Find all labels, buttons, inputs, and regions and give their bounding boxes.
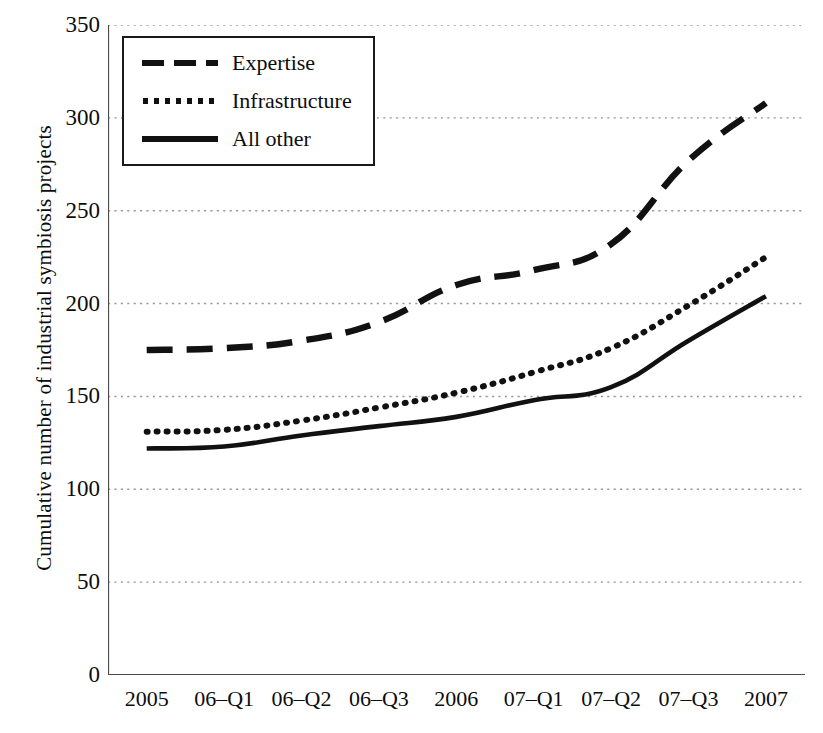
y-axis-tick-labels: 050100150200250300350 bbox=[28, 0, 100, 733]
y-axis-tick-label: 150 bbox=[38, 384, 100, 407]
y-axis-tick-label: 50 bbox=[38, 570, 100, 593]
series-line-all-other bbox=[147, 296, 766, 448]
legend-swatch-dashed-icon bbox=[140, 53, 220, 73]
legend-label: Infrastructure bbox=[232, 90, 352, 112]
y-axis-tick-label: 350 bbox=[38, 13, 100, 36]
legend-swatch-dotted-icon bbox=[140, 91, 220, 111]
y-axis-tick-label: 0 bbox=[38, 663, 100, 686]
legend-label: Expertise bbox=[232, 52, 315, 74]
y-axis-tick-label: 200 bbox=[38, 292, 100, 315]
legend-item-all-other: All other bbox=[124, 122, 373, 156]
y-axis-tick-label: 300 bbox=[38, 106, 100, 129]
legend-item-expertise: Expertise bbox=[124, 46, 373, 80]
x-axis-tick-labels: 200506–Q106–Q206–Q3200607–Q107–Q207–Q320… bbox=[0, 688, 823, 722]
chart-legend: Expertise Infrastructure All other bbox=[122, 36, 375, 166]
x-axis-tick-label: 2007 bbox=[718, 688, 814, 710]
y-axis-tick-label: 250 bbox=[38, 199, 100, 222]
legend-item-infrastructure: Infrastructure bbox=[124, 84, 373, 118]
legend-label: All other bbox=[232, 128, 311, 150]
y-axis-tick-label: 100 bbox=[38, 477, 100, 500]
chart-figure: Cumulative number of industrial symbiosi… bbox=[0, 0, 823, 733]
legend-swatch-solid-icon bbox=[140, 129, 220, 149]
